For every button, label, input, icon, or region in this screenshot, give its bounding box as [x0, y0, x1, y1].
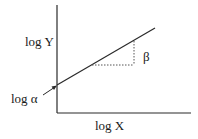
x-axis-label: log X: [95, 119, 124, 132]
regression-line: [57, 28, 155, 85]
y-axis-label: log Y: [25, 35, 54, 48]
intercept-arrow: [43, 86, 57, 96]
intercept-label: log α: [11, 92, 38, 105]
slope-label: β: [143, 50, 150, 63]
log-log-diagram: log Y β log α log X: [0, 0, 198, 139]
